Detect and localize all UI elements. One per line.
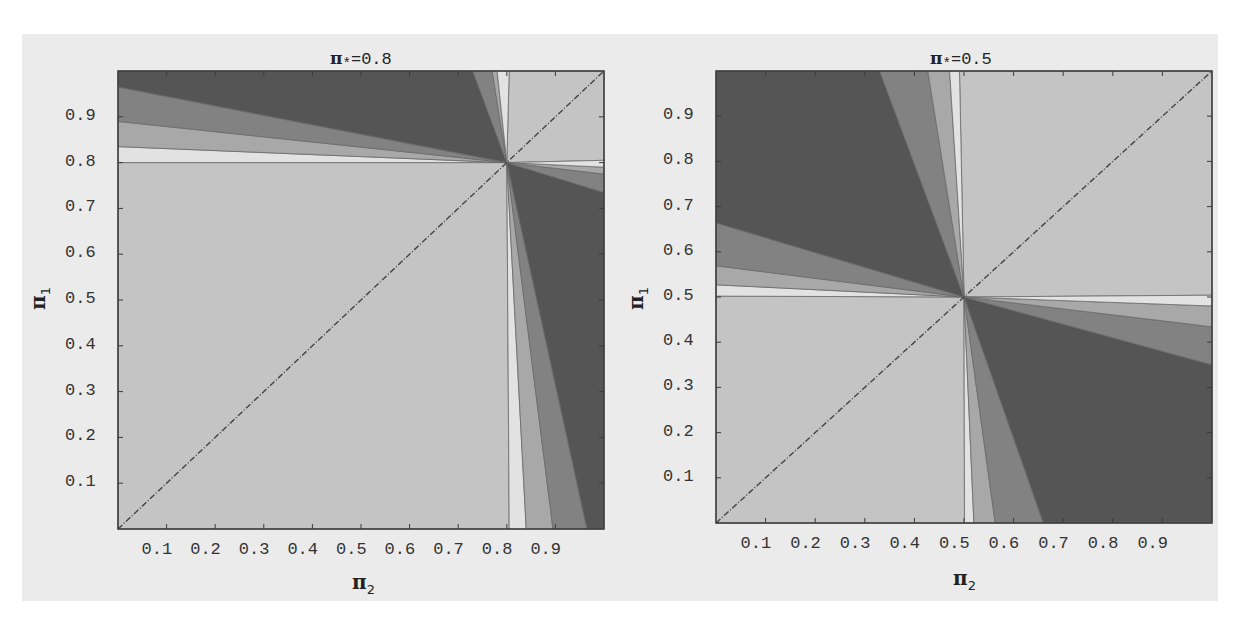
y-tick-label: 0.4 — [663, 331, 694, 350]
x-tick-label: 0.4 — [889, 534, 920, 553]
x-tick-label: 0.7 — [1038, 534, 1069, 553]
y-tick-label: 0.9 — [663, 105, 694, 124]
y-tick-label: 0.8 — [663, 150, 694, 169]
x-tick-label: 0.5 — [939, 534, 970, 553]
y-tick-label: 0.5 — [663, 286, 694, 305]
y-tick-label: 0.3 — [663, 376, 694, 395]
right-contour-plot — [0, 0, 1242, 624]
x-tick-label: 0.3 — [840, 534, 871, 553]
x-tick-label: 0.2 — [790, 534, 821, 553]
x-tick-label: 0.9 — [1137, 534, 1168, 553]
right-x-axis-label: π2 — [953, 566, 976, 593]
y-tick-label: 0.7 — [663, 196, 694, 215]
y-tick-label: 0.2 — [663, 422, 694, 441]
x-tick-label: 0.6 — [989, 534, 1020, 553]
right-y-axis-label: π1 — [624, 287, 651, 310]
x-tick-label: 0.8 — [1088, 534, 1119, 553]
y-tick-label: 0.1 — [663, 467, 694, 486]
y-tick-label: 0.6 — [663, 241, 694, 260]
x-tick-label: 0.1 — [741, 534, 772, 553]
